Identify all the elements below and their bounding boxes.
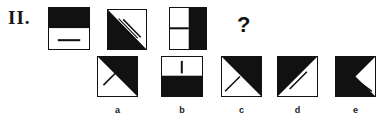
option-figure-c-graphic — [222, 57, 261, 96]
option-figure-b-graphic — [162, 57, 202, 96]
stem-figure-3-graphic — [170, 8, 206, 49]
option-figure-a-graphic — [98, 57, 137, 96]
stem-figure-1-graphic — [49, 8, 89, 49]
option-figure-d-graphic — [278, 57, 317, 96]
stem-figure-1 — [48, 7, 90, 50]
option-label-d: d — [277, 106, 318, 115]
question-mark: ? — [237, 14, 250, 36]
option-label-c: c — [221, 106, 262, 115]
option-figure-e[interactable] — [335, 56, 376, 97]
stem-figure-2-graphic — [108, 10, 146, 49]
option-figure-b[interactable] — [161, 56, 203, 97]
option-figure-a[interactable] — [97, 56, 138, 97]
stem-figure-2 — [107, 9, 147, 50]
option-label-b: b — [161, 106, 203, 115]
option-label-e: e — [335, 106, 376, 115]
item-number: II. — [8, 8, 31, 27]
option-figure-d[interactable] — [277, 56, 318, 97]
option-figure-e-graphic — [336, 57, 375, 96]
stem-figure-3 — [169, 7, 207, 50]
option-figure-c[interactable] — [221, 56, 262, 97]
test-item-page: II. — [0, 0, 386, 125]
option-label-a: a — [97, 106, 138, 115]
